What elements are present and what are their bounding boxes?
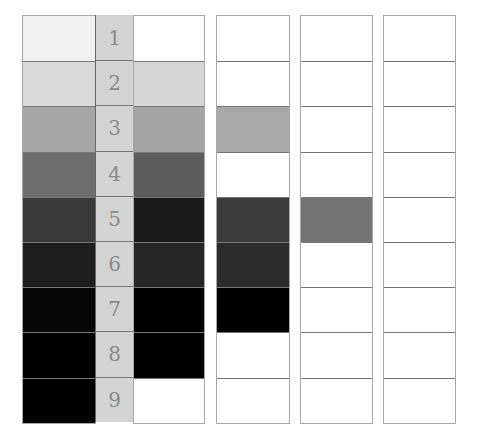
column-c-cell-1 xyxy=(217,16,289,61)
row-label: 3 xyxy=(95,105,134,150)
column-a-cell-8 xyxy=(23,332,95,377)
column-d-cell-4 xyxy=(301,152,372,197)
column-a-cell-5 xyxy=(23,197,95,242)
row-label-column: 123456789 xyxy=(95,15,134,422)
column-d-cell-1 xyxy=(301,16,372,61)
column-b-cell-6 xyxy=(134,242,204,287)
column-d-cell-9 xyxy=(301,378,372,423)
column-e-cell-5 xyxy=(384,197,455,242)
column-a-cell-4 xyxy=(23,152,95,197)
column-a xyxy=(22,15,96,424)
column-d-cell-8 xyxy=(301,332,372,377)
column-e-cell-6 xyxy=(384,242,455,287)
row-label: 5 xyxy=(95,196,134,241)
column-d-cell-5 xyxy=(301,197,372,242)
column-a-cell-6 xyxy=(23,242,95,287)
row-label: 2 xyxy=(95,60,134,105)
column-c xyxy=(216,15,290,424)
row-label: 9 xyxy=(95,377,134,422)
row-label: 7 xyxy=(95,286,134,331)
column-c-cell-5 xyxy=(217,197,289,242)
column-b-cell-4 xyxy=(134,152,204,197)
column-a-cell-1 xyxy=(23,16,95,61)
column-b-cell-9 xyxy=(134,378,204,423)
column-c-cell-2 xyxy=(217,61,289,106)
column-a-cell-9 xyxy=(23,378,95,423)
column-b-cell-5 xyxy=(134,197,204,242)
column-a-cell-2 xyxy=(23,61,95,106)
column-c-cell-3 xyxy=(217,106,289,151)
column-c-cell-9 xyxy=(217,378,289,423)
column-e-cell-4 xyxy=(384,152,455,197)
column-d-cell-3 xyxy=(301,106,372,151)
column-b-cell-1 xyxy=(134,16,204,61)
row-label: 8 xyxy=(95,331,134,376)
column-c-cell-7 xyxy=(217,287,289,332)
row-label: 6 xyxy=(95,241,134,286)
column-a-cell-7 xyxy=(23,287,95,332)
column-b-cell-8 xyxy=(134,332,204,377)
column-c-cell-6 xyxy=(217,242,289,287)
column-e-cell-9 xyxy=(384,378,455,423)
column-a-cell-3 xyxy=(23,106,95,151)
row-label: 4 xyxy=(95,151,134,196)
column-d xyxy=(300,15,373,424)
column-e-cell-3 xyxy=(384,106,455,151)
column-e xyxy=(383,15,456,424)
column-b-cell-3 xyxy=(134,106,204,151)
column-d-cell-6 xyxy=(301,242,372,287)
column-e-cell-1 xyxy=(384,16,455,61)
column-e-cell-8 xyxy=(384,332,455,377)
column-b xyxy=(133,15,205,424)
column-b-cell-7 xyxy=(134,287,204,332)
column-c-cell-4 xyxy=(217,152,289,197)
row-label: 1 xyxy=(95,15,134,60)
column-d-cell-2 xyxy=(301,61,372,106)
column-e-cell-7 xyxy=(384,287,455,332)
column-b-cell-2 xyxy=(134,61,204,106)
column-d-cell-7 xyxy=(301,287,372,332)
column-e-cell-2 xyxy=(384,61,455,106)
column-c-cell-8 xyxy=(217,332,289,377)
